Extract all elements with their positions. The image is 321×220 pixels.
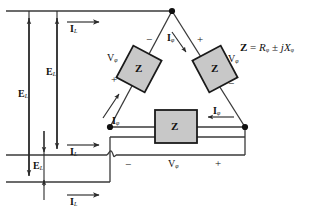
line-current-arrows <box>67 22 99 195</box>
node-apex <box>169 8 175 14</box>
node-right <box>242 124 248 130</box>
polarity-bottom-plus: + <box>215 157 221 169</box>
conductors <box>6 11 245 182</box>
z-bottom-label: Z <box>171 120 178 132</box>
el-outer-label: EL <box>18 88 28 99</box>
line-voltage-dimensions <box>29 11 57 200</box>
wire-hop <box>107 151 116 157</box>
polarity-bottom-minus: − <box>125 158 131 170</box>
polarity-right-minus: − <box>228 77 234 89</box>
polarity-right-plus: + <box>197 33 203 45</box>
z-left-label: Z <box>135 62 142 74</box>
il-bottom-label: IL <box>70 196 77 207</box>
iphi-top-label: Iφ <box>167 32 174 43</box>
circuit-canvas <box>0 0 321 220</box>
vphi-left-label: Vφ <box>107 52 118 63</box>
vphi-right-label: Vφ <box>228 53 239 64</box>
vphi-bottom-label: Vφ <box>168 158 179 169</box>
impedance-equation: Z = Rφ ± jXφ <box>240 41 294 53</box>
il-middle-label: IL <box>70 146 77 157</box>
iphi-bottom-label: Iφ <box>213 105 220 116</box>
el-middle-label: EL <box>46 66 56 77</box>
polarity-left-minus: − <box>146 33 152 45</box>
el-inner-label: EL <box>33 160 43 171</box>
iphi-left-label: Iφ <box>112 115 119 126</box>
il-top-label: IL <box>70 23 77 34</box>
z-right-label: Z <box>211 62 218 74</box>
delta-connection-diagram: IL IL IL EL EL EL Iφ Iφ Iφ Vφ Vφ Vφ Z Z … <box>0 0 321 220</box>
polarity-left-plus: + <box>111 73 117 85</box>
